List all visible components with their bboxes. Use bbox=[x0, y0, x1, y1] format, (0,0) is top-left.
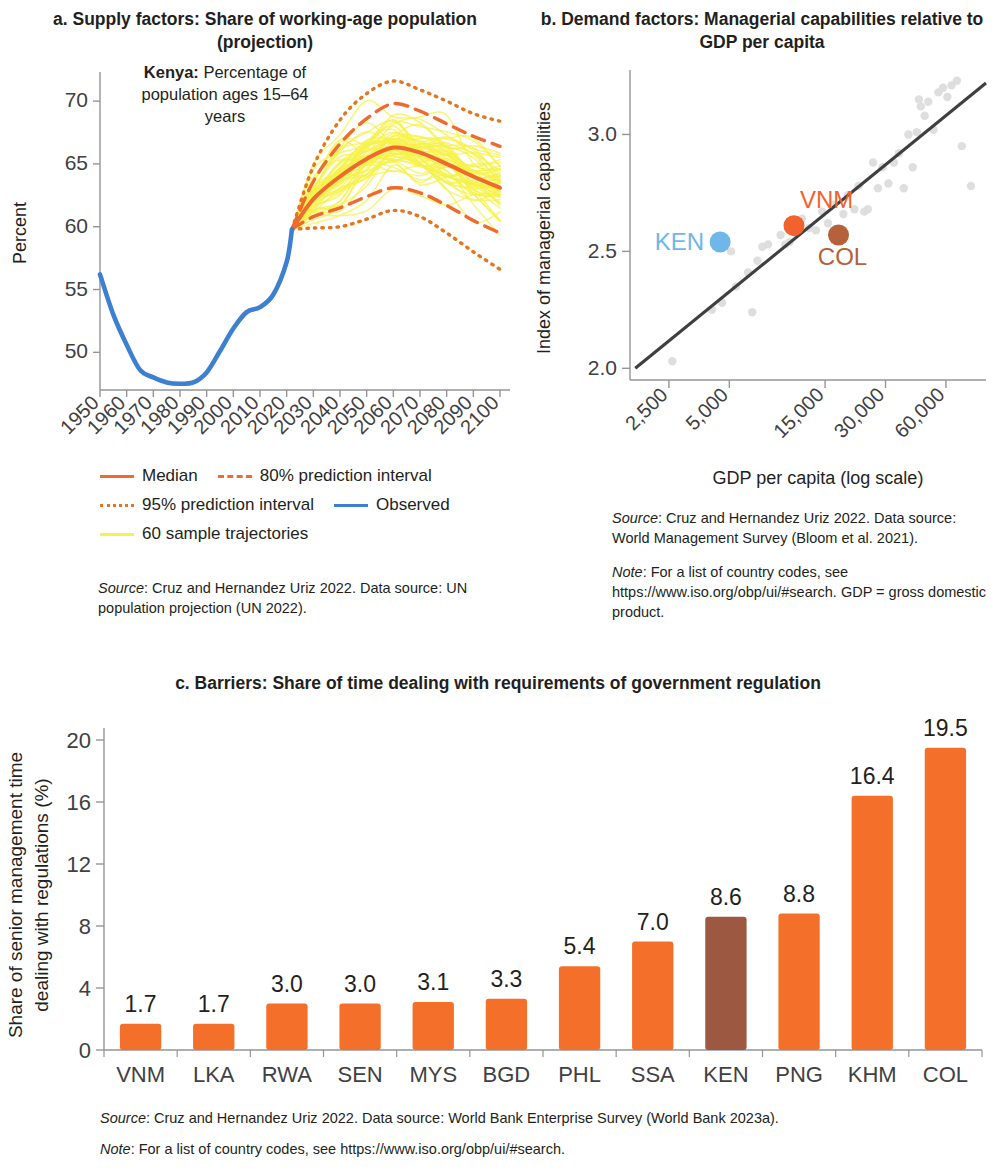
panel-c-bar-ssa bbox=[632, 942, 673, 1051]
panel-b-xtick: 2,500 bbox=[621, 383, 672, 434]
panel-c-bar-mys bbox=[413, 1002, 454, 1050]
panel-c-bar-col bbox=[925, 748, 966, 1050]
panel-a-ytick: 65 bbox=[65, 151, 88, 174]
panel-c-value-label-ken: 8.6 bbox=[710, 884, 742, 910]
legend-row-1: Median 80% prediction interval bbox=[100, 466, 520, 486]
panel-a-ytick: 60 bbox=[65, 214, 88, 237]
panel-c-source-text: : Cruz and Hernandez Uriz 2022. Data sou… bbox=[146, 1110, 779, 1126]
panel-b-note-prefix: Note bbox=[612, 564, 643, 580]
panel-a-yaxis-title: Percent bbox=[10, 202, 30, 264]
panel-a-supply-factors: a. Supply factors: Share of working-age … bbox=[0, 0, 520, 655]
panel-b-marker-ken bbox=[710, 232, 731, 253]
panel-c-category-col: COL bbox=[923, 1062, 968, 1087]
panel-c-ytick: 20 bbox=[67, 728, 91, 753]
panel-c-category-vnm: VNM bbox=[116, 1062, 165, 1087]
panel-b-title: b. Demand factors: Managerial capabiliti… bbox=[528, 8, 996, 55]
panel-c-category-sen: SEN bbox=[337, 1062, 382, 1087]
panel-a-annotation: Kenya: Percentage of population ages 15–… bbox=[120, 62, 330, 152]
panel-c-value-label-mys: 3.1 bbox=[417, 969, 449, 995]
panel-c-value-label-col: 19.5 bbox=[923, 715, 968, 741]
panel-c-value-label-lka: 1.7 bbox=[198, 991, 230, 1017]
panel-c-category-mys: MYS bbox=[409, 1062, 457, 1087]
legend-label-observed: Observed bbox=[376, 495, 450, 515]
panel-c-ytick: 4 bbox=[79, 976, 91, 1001]
legend-swatch-median bbox=[100, 475, 134, 478]
panel-c-notes: Source: Cruz and Hernandez Uriz 2022. Da… bbox=[100, 1108, 980, 1170]
panel-b-source: Source: Cruz and Hernandez Uriz 2022. Da… bbox=[612, 508, 992, 558]
panel-c-bar-vnm bbox=[120, 1024, 161, 1050]
panel-b-points bbox=[668, 76, 975, 365]
panel-c-ytick: 8 bbox=[79, 914, 91, 939]
panel-a-svg: 5055606570Percent19501960197019801990200… bbox=[0, 58, 520, 458]
panel-c-ytick: 16 bbox=[67, 790, 91, 815]
panel-c-value-label-sen: 3.0 bbox=[344, 971, 376, 997]
legend-item-median: Median bbox=[100, 466, 218, 486]
panel-c-note-text: : For a list of country codes, see https… bbox=[131, 1141, 565, 1157]
panel-c-value-label-khm: 16.4 bbox=[850, 763, 895, 789]
panel-c-category-rwa: RWA bbox=[262, 1062, 312, 1087]
legend-label-pi95: 95% prediction interval bbox=[142, 495, 314, 515]
panel-c-chart: 048121620Share of senior management time… bbox=[0, 706, 996, 1106]
panel-c-ytick: 0 bbox=[79, 1038, 91, 1063]
panel-c-note: Note: For a list of country codes, see h… bbox=[100, 1139, 980, 1159]
panel-c-bar-png bbox=[778, 914, 819, 1050]
legend-item-pi80: 80% prediction interval bbox=[218, 466, 452, 486]
panel-b-ytick: 2.5 bbox=[588, 239, 617, 262]
panel-c-bar-lka bbox=[193, 1024, 234, 1050]
legend-swatch-pi95 bbox=[100, 504, 134, 507]
panel-b-chart: 2.02.53.0Index of managerial capabilitie… bbox=[520, 62, 996, 492]
legend-swatch-trajectories bbox=[100, 533, 134, 536]
panel-b-ytick: 2.0 bbox=[588, 356, 617, 379]
panel-b-svg: 2.02.53.0Index of managerial capabilitie… bbox=[520, 62, 996, 492]
legend-item-pi95: 95% prediction interval bbox=[100, 495, 334, 515]
panel-c-bar-sen bbox=[339, 1004, 380, 1051]
panel-b-label-col: COL bbox=[818, 243, 867, 270]
panel-b-fit-line bbox=[635, 83, 986, 368]
panel-c-category-bgd: BGD bbox=[483, 1062, 531, 1087]
panel-c-bars bbox=[120, 748, 966, 1050]
figure-root: a. Supply factors: Share of working-age … bbox=[0, 0, 996, 1170]
panel-c-category-png: PNG bbox=[775, 1062, 823, 1087]
panel-b-xaxis-title: GDP per capita (log scale) bbox=[713, 468, 924, 488]
legend-label-trajectories: 60 sample trajectories bbox=[142, 524, 308, 544]
panel-c-bar-rwa bbox=[266, 1004, 307, 1051]
panel-c-bar-ken bbox=[705, 917, 746, 1050]
legend-label-median: Median bbox=[142, 466, 198, 486]
panel-c-yaxis-title: dealing with regulations (%) bbox=[31, 778, 52, 1011]
panel-b-source-text: : Cruz and Hernandez Uriz 2022. Data sou… bbox=[612, 510, 956, 546]
panel-c-category-lka: LKA bbox=[193, 1062, 235, 1087]
panel-a-source: Source: Cruz and Hernandez Uriz 2022. Da… bbox=[98, 578, 478, 618]
panel-c-note-prefix: Note bbox=[100, 1141, 131, 1157]
panel-b-label-vnm: VNM bbox=[800, 186, 853, 213]
panel-c-category-khm: KHM bbox=[848, 1062, 897, 1087]
panel-a-title: a. Supply factors: Share of working-age … bbox=[40, 8, 490, 55]
panel-a-legend: Median 80% prediction interval 95% predi… bbox=[100, 466, 520, 553]
panel-b-note: Note: For a list of country codes, see h… bbox=[612, 562, 994, 622]
panel-b-note-text: : For a list of country codes, see https… bbox=[612, 564, 986, 620]
panel-b-source-prefix: Source bbox=[612, 510, 658, 526]
panel-c-svg: 048121620Share of senior management time… bbox=[0, 706, 996, 1106]
panel-c-ytick: 12 bbox=[67, 852, 91, 877]
panel-c-title: c. Barriers: Share of time dealing with … bbox=[0, 672, 996, 695]
panel-c-category-phl: PHL bbox=[558, 1062, 601, 1087]
panel-b-demand-factors: b. Demand factors: Managerial capabiliti… bbox=[520, 0, 996, 655]
legend-item-observed: Observed bbox=[334, 495, 470, 515]
legend-row-2: 95% prediction interval Observed bbox=[100, 495, 520, 515]
panel-a-ytick: 55 bbox=[65, 277, 88, 300]
panel-b-xtick: 60,000 bbox=[890, 383, 949, 442]
panel-a-chart: 5055606570Percent19501960197019801990200… bbox=[0, 58, 520, 458]
panel-c-bar-bgd bbox=[486, 999, 527, 1050]
panel-c-category-ssa: SSA bbox=[631, 1062, 675, 1087]
panel-b-marker-vnm bbox=[784, 215, 805, 236]
panel-c-value-label-vnm: 1.7 bbox=[125, 991, 157, 1017]
panel-c-bar-phl bbox=[559, 966, 600, 1050]
panel-b-yaxis-title: Index of managerial capabilities bbox=[534, 102, 554, 354]
panel-c-yaxis-title: Share of senior management time bbox=[5, 752, 26, 1038]
panel-b-xtick: 30,000 bbox=[830, 383, 889, 442]
panel-a-ytick: 70 bbox=[65, 88, 88, 111]
panel-c-source-prefix: Source bbox=[100, 1110, 146, 1126]
panel-c-value-label-phl: 5.4 bbox=[564, 933, 596, 959]
legend-item-trajectories: 60 sample trajectories bbox=[100, 524, 328, 544]
panel-b-xtick: 15,000 bbox=[769, 383, 828, 442]
panel-c-source: Source: Cruz and Hernandez Uriz 2022. Da… bbox=[100, 1108, 980, 1128]
